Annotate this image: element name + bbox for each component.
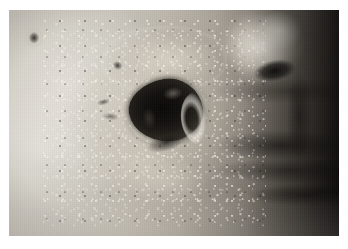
- screenshot-root: [0, 0, 348, 249]
- clinical-photograph: [9, 10, 339, 236]
- film-grain-texture: [9, 10, 339, 236]
